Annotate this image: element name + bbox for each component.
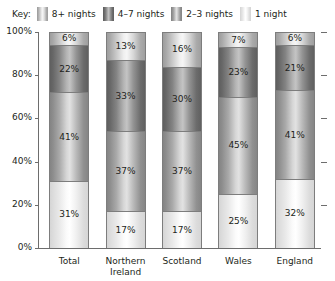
y-axis-tick-label: 80% <box>12 69 32 79</box>
bar-group[interactable]: 6%21%41%32% <box>275 32 315 248</box>
bar-segment-value-label: 45% <box>228 141 248 150</box>
y-axis-tick-mark-right <box>321 118 327 119</box>
plot-area: 100%80%60%40%20%0%6%22%41%31%Total13%33%… <box>38 32 321 249</box>
legend-item-4-7: 4–7 nights <box>103 7 165 21</box>
swatch-4-7-icon <box>103 7 114 21</box>
bar-segment[interactable]: 6% <box>275 32 315 45</box>
legend-key-label: Key: <box>12 9 31 19</box>
y-axis-tick-label: 40% <box>12 156 32 166</box>
y-axis-tick-mark-right <box>321 162 327 163</box>
bar-segment[interactable]: 33% <box>106 60 146 131</box>
legend-item-2-3: 2–3 nights <box>171 7 233 21</box>
y-axis-tick-mark <box>35 248 39 249</box>
bar-segment[interactable]: 30% <box>162 67 202 132</box>
bar-segment-value-label: 6% <box>62 34 76 43</box>
bar-segment[interactable]: 17% <box>106 211 146 248</box>
bar-segment[interactable]: 13% <box>106 32 146 60</box>
bar-segment-value-label: 17% <box>172 226 192 235</box>
swatch-8plus-icon <box>37 7 48 21</box>
bar-segment[interactable]: 7% <box>218 32 258 47</box>
y-axis-tick-label: 100% <box>6 26 32 36</box>
legend-label-1-night: 1 night <box>255 9 287 19</box>
y-axis-tick-label: 60% <box>12 112 32 122</box>
y-axis-tick-mark-right <box>321 205 327 206</box>
stacked-bar[interactable]: 16%30%37%17% <box>162 32 202 248</box>
legend-label-4-7: 4–7 nights <box>118 9 165 19</box>
bar-segment-value-label: 41% <box>285 131 305 140</box>
x-axis-category-label: England <box>259 256 331 267</box>
legend-label-2-3: 2–3 nights <box>186 9 233 19</box>
stacked-bar-chart: 100%80%60%40%20%0%6%22%41%31%Total13%33%… <box>0 28 335 281</box>
bar-group[interactable]: 16%30%37%17% <box>162 32 202 248</box>
y-axis-tick-label: 20% <box>12 199 32 209</box>
legend-item-8plus: 8+ nights <box>37 7 96 21</box>
bar-segment[interactable]: 45% <box>218 97 258 194</box>
bar-segment[interactable]: 32% <box>275 179 315 248</box>
bar-segment[interactable]: 23% <box>218 47 258 97</box>
stacked-bar[interactable]: 7%23%45%25% <box>218 32 258 248</box>
bar-segment-value-label: 25% <box>228 217 248 226</box>
bar-group[interactable]: 7%23%45%25% <box>218 32 258 248</box>
bar-segment-value-label: 37% <box>116 167 136 176</box>
bar-segment-value-label: 30% <box>172 95 192 104</box>
bar-segment-value-label: 22% <box>59 65 79 74</box>
bar-segment-value-label: 31% <box>59 210 79 219</box>
bar-segment-value-label: 21% <box>285 64 305 73</box>
bar-segment[interactable]: 25% <box>218 194 258 248</box>
bar-segment-value-label: 16% <box>172 45 192 54</box>
legend-item-1-night: 1 night <box>240 7 287 21</box>
bar-segment[interactable]: 41% <box>275 90 315 179</box>
y-axis-tick-mark <box>35 205 39 206</box>
swatch-1-icon <box>240 7 251 21</box>
stacked-bar[interactable]: 6%21%41%32% <box>275 32 315 248</box>
bar-group[interactable]: 13%33%37%17% <box>106 32 146 248</box>
y-axis-tick-mark <box>35 118 39 119</box>
bar-group[interactable]: 6%22%41%31% <box>49 32 89 248</box>
bar-segment[interactable]: 21% <box>275 45 315 90</box>
y-axis-tick-mark <box>35 162 39 163</box>
bar-segment-value-label: 41% <box>59 133 79 142</box>
y-axis-tick-mark-right <box>321 32 327 33</box>
bar-segment[interactable]: 22% <box>49 45 89 93</box>
y-axis-tick-mark <box>35 75 39 76</box>
bar-segment[interactable]: 41% <box>49 92 89 181</box>
legend-label-8plus: 8+ nights <box>52 9 96 19</box>
bar-segment-value-label: 6% <box>288 34 302 43</box>
y-axis-tick-label: 0% <box>18 242 32 252</box>
y-axis-tick-mark <box>35 32 39 33</box>
bar-segment-value-label: 23% <box>228 68 248 77</box>
swatch-2-3-icon <box>171 7 182 21</box>
bar-segment[interactable]: 16% <box>162 32 202 67</box>
bar-segment[interactable]: 37% <box>106 131 146 211</box>
bar-segment[interactable]: 31% <box>49 181 89 248</box>
stacked-bar[interactable]: 6%22%41%31% <box>49 32 89 248</box>
bar-segment[interactable]: 17% <box>162 211 202 248</box>
y-axis-tick-mark-right <box>321 75 327 76</box>
bar-segment-value-label: 13% <box>116 42 136 51</box>
chart-legend: Key: 8+ nights 4–7 nights 2–3 nights 1 n… <box>0 0 335 28</box>
stacked-bar[interactable]: 13%33%37%17% <box>106 32 146 248</box>
bar-segment-value-label: 37% <box>172 167 192 176</box>
bar-segment-value-label: 32% <box>285 209 305 218</box>
bar-segment-value-label: 7% <box>231 36 245 45</box>
bar-segment-value-label: 33% <box>116 92 136 101</box>
bar-segment-value-label: 17% <box>116 226 136 235</box>
bar-segment[interactable]: 6% <box>49 32 89 45</box>
bar-segment[interactable]: 37% <box>162 131 202 211</box>
